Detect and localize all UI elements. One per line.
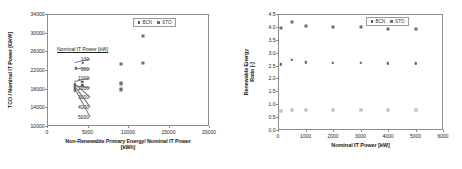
- x-tick-label: 1000: [300, 133, 311, 139]
- data-point-low-band: [387, 108, 390, 111]
- data-point-sto: [120, 83, 123, 86]
- x-axis-label-left-line2: [kWh]: [31, 144, 225, 150]
- legend-marker-bcn-icon: [371, 20, 373, 22]
- x-tick-label: 2000: [327, 133, 338, 139]
- data-point-bcn: [280, 63, 282, 65]
- legend-marker-sto-icon: [390, 20, 393, 23]
- x-tick-mark: [88, 126, 89, 128]
- x-tick-mark: [278, 130, 279, 132]
- y-tick-label: 4.5: [269, 11, 276, 17]
- y-tick-mark: [276, 53, 278, 54]
- y-axis-label-right: Renewable Energy Ratio [-]: [243, 14, 255, 130]
- legend-label-sto: STO: [162, 20, 171, 25]
- x-tick-label: 0: [277, 133, 280, 139]
- legend-left: BCN STO: [133, 18, 176, 27]
- data-point-sto: [304, 25, 307, 28]
- data-point-sto: [359, 26, 362, 29]
- x-axis-label-right: Nominal IT Power [kW]: [278, 142, 443, 148]
- x-tick-mark: [388, 130, 389, 132]
- scatter-plot-tco: 10000140001800022000260003000034000 0500…: [0, 0, 231, 169]
- y-tick-label: 30000: [31, 30, 45, 36]
- y-axis-label-left: TCO / Nominal IT Power [€/kW]: [7, 14, 13, 126]
- data-point-sto: [141, 35, 144, 38]
- y-tick-mark: [45, 89, 47, 90]
- legend-entry-bcn: BCN: [138, 20, 152, 25]
- y-tick-label: 26000: [31, 48, 45, 54]
- x-tick-label: 5000: [410, 133, 421, 139]
- y-tick-label: 1.5: [269, 88, 276, 94]
- data-point-sto: [414, 28, 417, 31]
- legend-marker-bcn-icon: [138, 21, 140, 23]
- x-tick-label: 15000: [162, 129, 176, 135]
- y-tick-label: 14000: [31, 104, 45, 110]
- data-point-low-band: [304, 108, 307, 111]
- y-tick-mark: [45, 70, 47, 71]
- x-tick-mark: [169, 126, 170, 128]
- x-tick-mark: [306, 130, 307, 132]
- annotation-leader-line: [75, 68, 90, 69]
- y-tick-mark: [276, 40, 278, 41]
- x-tick-mark: [128, 126, 129, 128]
- y-tick-label: 3.0: [269, 50, 276, 56]
- data-point-low-band: [414, 108, 417, 111]
- legend-label-bcn: BCN: [375, 19, 385, 24]
- x-axis-label-left: Non-Renewable Primary Energy/ Nominal IT…: [31, 138, 225, 150]
- data-point-sto: [387, 27, 390, 30]
- legend-entry-bcn: BCN: [371, 19, 385, 24]
- x-tick-mark: [361, 130, 362, 132]
- y-tick-mark: [276, 78, 278, 79]
- data-point-sto: [141, 62, 144, 65]
- data-point-low-band: [359, 108, 362, 111]
- y-tick-label: 0.0: [269, 127, 276, 133]
- data-point-sto: [290, 20, 293, 23]
- legend-entry-sto: STO: [390, 19, 404, 24]
- legend-label-sto: STO: [395, 19, 404, 24]
- y-tick-label: 0.5: [269, 114, 276, 120]
- data-point-sto: [120, 62, 123, 65]
- annotation-title: Nominal IT Power [kW]: [57, 46, 108, 52]
- y-tick-label: 1.0: [269, 101, 276, 107]
- y-tick-mark: [276, 66, 278, 67]
- data-point-sto: [332, 26, 335, 29]
- y-axis-label-right-line2: Ratio [-]: [249, 14, 255, 130]
- data-point-low-band: [290, 108, 293, 111]
- y-tick-label: 2.0: [269, 75, 276, 81]
- legend-entry-sto: STO: [157, 20, 171, 25]
- plot-frame-right: [278, 14, 443, 130]
- x-tick-label: 6000: [437, 133, 448, 139]
- data-point-bcn: [291, 59, 293, 61]
- chart-panel-left: 10000140001800022000260003000034000 0500…: [0, 0, 231, 169]
- scatter-plot-renewable-ratio: 0.00.51.01.52.02.53.03.54.04.5 010002000…: [231, 0, 462, 169]
- y-tick-mark: [276, 14, 278, 15]
- x-tick-label: 3000: [355, 133, 366, 139]
- x-tick-mark: [333, 130, 334, 132]
- data-point-sto: [279, 27, 282, 30]
- x-tick-label: 5000: [82, 129, 93, 135]
- legend-right: BCN STO: [366, 17, 409, 26]
- figure-canvas: 10000140001800022000260003000034000 0500…: [0, 0, 462, 169]
- y-tick-label: 3.5: [269, 37, 276, 43]
- y-tick-mark: [276, 27, 278, 28]
- y-tick-mark: [45, 51, 47, 52]
- data-point-low-band: [279, 109, 282, 112]
- data-point-bcn: [387, 62, 389, 64]
- x-tick-mark: [47, 126, 48, 128]
- y-tick-mark: [45, 14, 47, 15]
- y-tick-mark: [276, 91, 278, 92]
- x-tick-mark: [416, 130, 417, 132]
- data-point-bcn: [332, 62, 334, 64]
- data-point-low-band: [332, 108, 335, 111]
- data-point-bcn: [414, 62, 416, 64]
- y-tick-mark: [45, 107, 47, 108]
- y-tick-label: 22000: [31, 67, 45, 73]
- y-tick-mark: [45, 33, 47, 34]
- y-tick-label: 34000: [31, 11, 45, 17]
- x-tick-mark: [209, 126, 210, 128]
- y-tick-mark: [276, 117, 278, 118]
- data-point-bcn: [304, 61, 306, 63]
- y-tick-label: 18000: [31, 86, 45, 92]
- data-point-bcn: [359, 62, 361, 64]
- x-tick-label: 4000: [382, 133, 393, 139]
- x-tick-label: 10000: [121, 129, 135, 135]
- x-tick-label: 0: [46, 129, 49, 135]
